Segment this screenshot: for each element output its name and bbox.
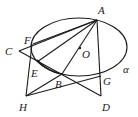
label-C: C [5,45,13,57]
geometry-figure: A O C F E B G H D α [0,0,138,117]
segment-AF [33,20,97,44]
arc-EB [37,60,62,74]
label-O: O [82,48,90,60]
segment-AD [97,20,101,96]
diagram-canvas: A O C F E B G H D α [0,0,138,117]
label-B: B [55,78,62,90]
label-A: A [97,4,105,16]
label-D: D [101,101,110,113]
point-O-dot [79,47,81,49]
label-H: H [18,101,28,113]
label-E: E [30,67,38,79]
label-alpha: α [123,63,129,75]
label-G: G [103,75,111,87]
label-F: F [23,34,31,46]
segment-HG [26,76,101,96]
